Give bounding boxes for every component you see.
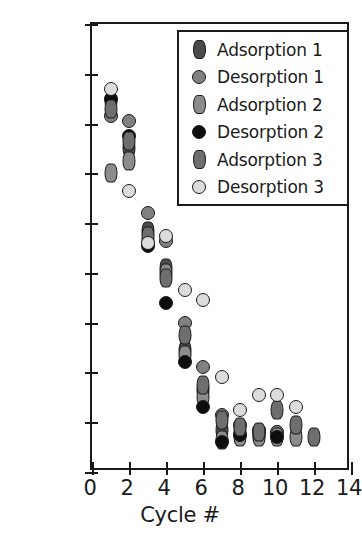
data-point: [122, 184, 136, 198]
chart-legend: Adsorption 1Desorption 1Adsorption 2Deso…: [177, 30, 349, 206]
y-axis-tick: [92, 372, 98, 374]
legend-item: Desorption 2: [179, 119, 347, 147]
data-point: [123, 131, 136, 150]
x-axis-tick: [92, 468, 94, 475]
data-point: [215, 435, 229, 449]
legend-item: Adsorption 2: [179, 91, 347, 119]
y-axis-tick: [92, 124, 98, 126]
data-point: [141, 206, 155, 220]
data-point: [159, 229, 173, 243]
data-point: [178, 283, 192, 297]
y-axis-tick: [92, 223, 98, 225]
y-axis-tick: [92, 422, 98, 424]
legend-item: Desorption 3: [179, 174, 347, 202]
circle-marker-icon: [188, 121, 210, 143]
data-point: [233, 403, 247, 417]
x-axis-tick: [351, 468, 353, 475]
legend-item: Adsorption 1: [179, 36, 347, 64]
y-axis-tick: [85, 223, 92, 225]
x-axis-tick-label: 0: [83, 476, 96, 500]
x-axis-tick: [203, 462, 205, 468]
x-axis-tick-label: 10: [262, 476, 288, 500]
x-axis-tick: [240, 462, 242, 468]
y-axis-tick: [92, 173, 98, 175]
x-axis-title: Cycle #: [140, 503, 220, 527]
data-point: [104, 99, 117, 118]
x-axis-tick: [314, 462, 316, 468]
legend-item: Adsorption 3: [179, 146, 347, 174]
legend-item-label: Desorption 3: [217, 177, 324, 197]
data-point: [215, 370, 229, 384]
legend-item-label: Adsorption 2: [217, 95, 323, 115]
y-axis-tick: [92, 74, 98, 76]
x-axis-tick: [92, 462, 94, 468]
x-axis-tick-label: 4: [157, 476, 170, 500]
legend-item-label: Desorption 2: [217, 122, 324, 142]
y-axis-tick: [92, 24, 98, 26]
x-axis-tick-label: 12: [299, 476, 325, 500]
y-axis-tick: [92, 273, 98, 275]
y-axis-tick: [92, 323, 98, 325]
data-point: [159, 296, 173, 310]
diamond-marker-icon: [188, 39, 210, 61]
legend-item: Desorption 1: [179, 64, 347, 92]
x-axis-tick: [351, 462, 353, 468]
y-axis-tick: [85, 74, 92, 76]
data-point: [122, 114, 136, 128]
data-point: [252, 388, 266, 402]
y-axis-tick: [85, 372, 92, 374]
data-point: [123, 151, 136, 170]
x-axis-tick: [277, 468, 279, 475]
data-point: [196, 293, 210, 307]
data-point: [215, 410, 228, 429]
diamond-marker-icon: [188, 94, 210, 116]
legend-item-label: Adsorption 1: [217, 40, 323, 60]
data-point: [104, 164, 117, 183]
data-point: [308, 428, 321, 447]
x-axis-tick: [166, 468, 168, 475]
data-point: [141, 236, 155, 250]
y-axis-tick: [85, 472, 92, 474]
y-axis-tick: [85, 24, 92, 26]
y-axis-tick: [85, 173, 92, 175]
x-axis-tick-label: 6: [194, 476, 207, 500]
x-axis-tick-label: 8: [231, 476, 244, 500]
y-axis-tick: [85, 124, 92, 126]
y-axis-tick: [85, 422, 92, 424]
data-point: [289, 400, 303, 414]
data-point: [234, 418, 247, 437]
legend-item-label: Adsorption 3: [217, 150, 323, 170]
x-axis-tick: [129, 462, 131, 468]
data-point: [196, 360, 210, 374]
circle-marker-icon: [188, 66, 210, 88]
data-point: [270, 388, 284, 402]
x-axis-tick: [129, 468, 131, 475]
data-point: [289, 415, 302, 434]
y-axis-tick: [85, 273, 92, 275]
data-point: [178, 355, 192, 369]
data-point: [104, 82, 118, 96]
data-point: [196, 400, 210, 414]
diamond-marker-icon: [188, 149, 210, 171]
x-axis-tick: [166, 462, 168, 468]
data-point: [270, 430, 284, 444]
data-point: [252, 423, 265, 442]
data-point: [160, 268, 173, 287]
x-axis-tick: [277, 462, 279, 468]
x-axis-tick: [314, 468, 316, 475]
x-axis-tick-label: 2: [120, 476, 133, 500]
y-axis-tick: [85, 323, 92, 325]
data-point: [197, 375, 210, 394]
x-axis-tick: [240, 468, 242, 475]
circle-marker-icon: [188, 176, 210, 198]
data-point: [271, 400, 284, 419]
data-point: [178, 326, 191, 345]
x-axis-tick: [203, 468, 205, 475]
x-axis-tick-label: 14: [336, 476, 362, 500]
legend-item-label: Desorption 1: [217, 67, 324, 87]
